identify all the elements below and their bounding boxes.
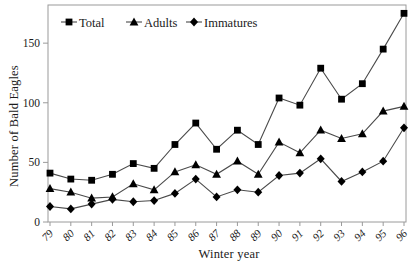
data-point-immatures bbox=[46, 202, 54, 211]
data-point-total bbox=[192, 120, 199, 127]
data-point-total bbox=[88, 177, 95, 184]
y-tick-label: 50 bbox=[29, 156, 41, 168]
x-tick-label: 96 bbox=[393, 227, 410, 244]
x-tick-label: 79 bbox=[39, 227, 56, 244]
data-point-total bbox=[296, 102, 303, 109]
data-point-total bbox=[172, 141, 179, 148]
data-point-total bbox=[317, 65, 324, 72]
y-tick-label: 150 bbox=[23, 37, 41, 49]
data-point-total bbox=[213, 146, 220, 153]
x-tick-label: 91 bbox=[289, 227, 305, 243]
y-tick-label: 100 bbox=[23, 97, 41, 109]
x-tick-label: 88 bbox=[227, 227, 244, 244]
data-point-immatures bbox=[400, 123, 408, 132]
data-point-adults bbox=[254, 170, 263, 178]
data-point-immatures bbox=[379, 157, 387, 166]
square-icon bbox=[66, 19, 73, 26]
x-tick-label: 83 bbox=[122, 227, 139, 244]
data-point-total bbox=[338, 96, 345, 103]
data-point-adults bbox=[129, 179, 138, 187]
x-tick-label: 95 bbox=[372, 227, 389, 244]
data-point-adults bbox=[191, 160, 200, 168]
data-point-immatures bbox=[233, 185, 241, 194]
legend-label-adults: Adults bbox=[144, 16, 177, 30]
x-tick-label: 93 bbox=[331, 227, 348, 244]
data-point-immatures bbox=[171, 189, 179, 198]
data-point-immatures bbox=[296, 169, 304, 178]
data-point-total bbox=[401, 10, 408, 17]
diamond-icon bbox=[190, 18, 198, 27]
series-line-adults bbox=[50, 106, 404, 198]
x-tick-label: 92 bbox=[310, 227, 327, 244]
data-point-immatures bbox=[254, 188, 262, 197]
plot-frame bbox=[48, 5, 406, 222]
data-point-immatures bbox=[275, 171, 283, 180]
data-point-total bbox=[109, 171, 116, 178]
x-tick-label: 85 bbox=[164, 227, 181, 244]
data-point-adults bbox=[400, 102, 409, 110]
data-point-adults bbox=[46, 184, 55, 192]
data-point-adults bbox=[233, 157, 242, 165]
x-tick-label: 94 bbox=[352, 227, 369, 244]
y-axis-title: Number of Bald Eagles bbox=[7, 65, 22, 187]
data-point-immatures bbox=[108, 195, 116, 204]
data-point-immatures bbox=[129, 197, 137, 206]
x-tick-label: 87 bbox=[206, 227, 223, 244]
data-point-total bbox=[130, 160, 137, 167]
data-point-immatures bbox=[150, 196, 158, 205]
y-tick-label: 0 bbox=[34, 216, 40, 228]
data-point-total bbox=[47, 170, 54, 177]
x-tick-label: 89 bbox=[247, 227, 264, 244]
data-point-total bbox=[359, 80, 366, 87]
series-line-total bbox=[50, 13, 404, 180]
x-tick-label: 84 bbox=[143, 227, 160, 244]
triangle-icon bbox=[130, 17, 139, 25]
data-point-total bbox=[255, 141, 262, 148]
data-point-adults bbox=[212, 170, 221, 178]
data-point-total bbox=[380, 46, 387, 53]
x-tick-label: 90 bbox=[268, 227, 285, 244]
data-point-total bbox=[234, 127, 241, 134]
data-point-adults bbox=[316, 126, 325, 134]
data-point-total bbox=[67, 176, 74, 183]
bald-eagle-line-chart: 0501001507980818283848586878889909192939… bbox=[0, 0, 412, 268]
data-point-adults bbox=[275, 138, 284, 146]
legend-label-total: Total bbox=[79, 16, 105, 30]
data-point-immatures bbox=[358, 168, 366, 177]
chart-svg: 0501001507980818283848586878889909192939… bbox=[0, 0, 412, 268]
x-tick-label: 86 bbox=[185, 227, 202, 244]
x-tick-label: 80 bbox=[60, 227, 77, 244]
data-point-total bbox=[151, 165, 158, 172]
x-axis-title: Winter year bbox=[198, 247, 259, 262]
x-tick-label: 82 bbox=[102, 227, 119, 244]
x-tick-label: 81 bbox=[81, 227, 97, 243]
legend-label-immatures: Immatures bbox=[204, 16, 258, 30]
data-point-immatures bbox=[67, 204, 75, 213]
data-point-total bbox=[276, 95, 283, 102]
